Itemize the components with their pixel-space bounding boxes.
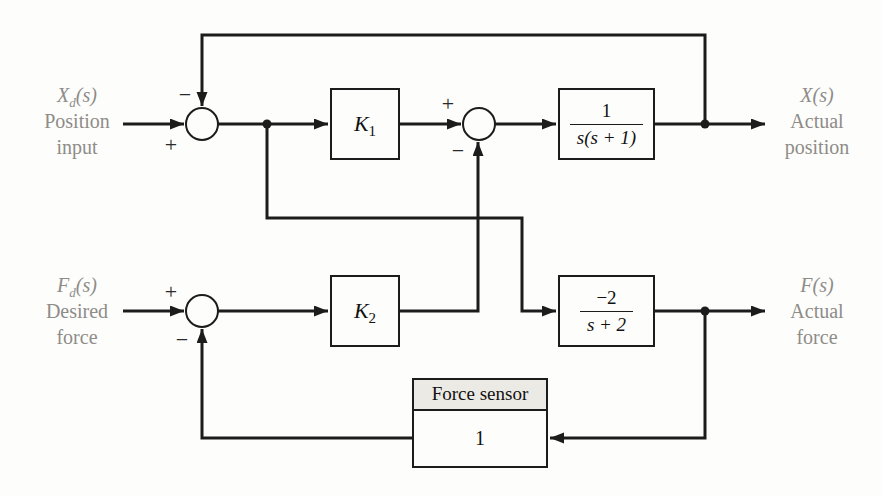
force-input-argument: (s) [76,274,97,296]
position-input-math: Xd(s) [22,82,132,108]
label-position-output: X(s) Actual position [762,82,872,160]
block-force-sensor: Force sensor 1 [412,378,548,468]
label-position-input: Xd(s) Position input [22,82,132,160]
force-output-desc1: Actual [762,298,872,324]
takeoff-dot-position-error [263,120,272,129]
k1-label: K1 [354,111,376,137]
sign-sumB-input-plus: + [442,93,454,115]
label-force-input: Fd(s) Desired force [22,272,132,350]
block-k1: K1 [330,88,400,160]
block-force-plant: −2 s + 2 [558,275,655,347]
sign-sumC-feedback-minus: − [176,329,188,351]
block-k2: K2 [330,275,400,347]
position-output-desc1: Actual [762,108,872,134]
position-output-math: X(s) [762,82,872,108]
force-plant-numerator: −2 [580,287,633,311]
force-input-symbol: F [57,274,69,296]
sign-sumB-force-minus: − [452,140,464,162]
force-sensor-title: Force sensor [414,380,546,411]
force-sensor-gain: 1 [414,411,546,466]
summing-junction-force [186,295,218,327]
position-plant-numerator: 1 [570,100,643,124]
force-input-desc1: Desired [22,298,132,324]
force-output-math: F(s) [762,272,872,298]
force-output-desc2: force [762,324,872,350]
force-input-math: Fd(s) [22,272,132,298]
sign-sumA-input-plus: + [165,134,177,156]
summing-junction-control [463,108,495,140]
sign-sumC-input-plus: + [165,281,177,303]
wire-k2-to-sumB [400,142,478,311]
position-plant-denominator: s(s + 1) [570,124,643,149]
k2-base: K [354,298,369,323]
position-input-desc1: Position [22,108,132,134]
force-plant-fraction: −2 s + 2 [580,287,633,336]
label-force-output: F(s) Actual force [762,272,872,350]
force-input-desc2: force [22,324,132,350]
force-plant-denominator: s + 2 [580,311,633,336]
block-position-plant: 1 s(s + 1) [558,88,655,160]
k1-base: K [354,111,369,136]
k1-subscript: 1 [369,123,377,139]
position-output-desc2: position [762,134,872,160]
wire-position-error-to-force-plant [267,124,556,311]
takeoff-dot-force-output [701,307,710,316]
position-plant-fraction: 1 s(s + 1) [570,100,643,149]
takeoff-dot-position-output [701,120,710,129]
sign-sumA-feedback-minus: − [179,84,191,106]
position-input-desc2: input [22,134,132,160]
position-input-argument: (s) [76,84,97,106]
block-diagram: K1 1 s(s + 1) K2 −2 s + 2 Force sensor 1… [0,0,883,496]
k2-subscript: 2 [369,310,377,326]
position-input-symbol: X [57,84,69,106]
summing-junction-position [186,108,218,140]
k2-label: K2 [354,298,376,324]
